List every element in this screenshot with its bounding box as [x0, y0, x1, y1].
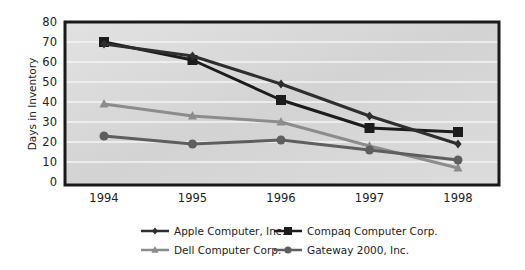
legend-label: Compaq Computer Corp. — [307, 225, 438, 237]
x-tick-label: 1995 — [178, 191, 207, 205]
legend-label: Gateway 2000, Inc. — [307, 244, 409, 256]
x-tick-label: 1996 — [266, 191, 295, 205]
y-tick-label: 30 — [42, 115, 57, 129]
legend-marker-triangle-icon — [140, 244, 170, 256]
y-axis: 01020304050607080 — [42, 15, 57, 189]
data-point-diamond — [152, 227, 158, 234]
data-point-circle — [277, 136, 286, 145]
legend-item-dell: Dell Computer Corp. — [140, 242, 273, 257]
y-tick-label: 80 — [42, 15, 57, 29]
legend-marker-square-icon — [273, 225, 303, 237]
data-point-square — [276, 95, 286, 105]
x-tick-label: 1994 — [89, 191, 118, 205]
y-tick-label: 20 — [42, 135, 57, 149]
y-tick-label: 70 — [42, 35, 57, 49]
y-axis-label: Days in Inventory — [26, 58, 38, 151]
legend-label: Dell Computer Corp. — [174, 244, 281, 256]
y-tick-label: 50 — [42, 75, 57, 89]
data-point-square — [453, 127, 463, 137]
data-point-circle — [454, 156, 463, 165]
legend-label: Apple Computer, Inc. — [174, 225, 285, 237]
legend: Apple Computer, Inc. Compaq Computer Cor… — [140, 223, 423, 257]
x-tick-label: 1998 — [443, 191, 472, 205]
data-point-square — [365, 123, 375, 133]
x-tick-label: 1997 — [355, 191, 384, 205]
y-tick-label: 0 — [50, 175, 57, 189]
x-axis: 19941995199619971998 — [89, 191, 472, 205]
data-point-square — [284, 227, 292, 235]
data-point-circle — [188, 140, 197, 149]
legend-item-gateway: Gateway 2000, Inc. — [273, 242, 423, 257]
legend-item-compaq: Compaq Computer Corp. — [273, 223, 423, 238]
legend-marker-circle-icon — [273, 244, 303, 256]
data-point-circle — [284, 246, 291, 253]
legend-marker-diamond-icon — [140, 225, 170, 237]
y-tick-label: 40 — [42, 95, 57, 109]
legend-item-apple: Apple Computer, Inc. — [140, 223, 273, 238]
y-tick-label: 10 — [42, 155, 57, 169]
y-tick-label: 60 — [42, 55, 57, 69]
data-point-circle — [365, 146, 374, 155]
data-point-circle — [100, 132, 109, 141]
